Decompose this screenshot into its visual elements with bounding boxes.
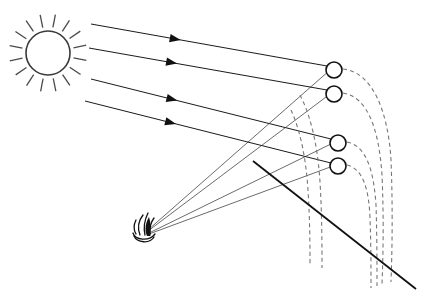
sun-spikes (10, 15, 87, 92)
sun-ray-arrowhead-3 (166, 94, 178, 102)
flame-core (146, 217, 151, 236)
sun-spike (53, 15, 55, 28)
light-rays-diagram (0, 0, 430, 305)
sun-spike (27, 75, 34, 86)
traj-5 (300, 95, 322, 268)
sun-spike (41, 79, 43, 92)
sun-ray-arrowhead-4 (164, 117, 176, 125)
sun-spike (53, 78, 56, 91)
flame-left (139, 215, 143, 235)
sun-spike (26, 21, 33, 32)
sun-ray-2 (89, 48, 327, 90)
sun-ray-1 (91, 24, 327, 66)
sun-spike (73, 45, 86, 48)
sun-rays-group (85, 24, 331, 163)
traj-4 (347, 165, 371, 288)
fire-ray-3 (149, 143, 333, 233)
sun-spike (16, 68, 27, 75)
fire-icon (133, 213, 155, 242)
flame-far-left (134, 220, 136, 234)
sun-ray-arrowhead-2 (166, 58, 178, 66)
sphere-4 (330, 158, 346, 174)
sun-spike (70, 67, 81, 74)
sun-spike (10, 58, 23, 61)
sun-ray-3 (91, 79, 331, 139)
sun-spike (63, 75, 70, 86)
sun-spike (62, 20, 69, 31)
sun-spike (70, 31, 81, 38)
fire-rays-group (148, 70, 333, 234)
sphere-2 (326, 86, 342, 102)
sun-spike (74, 58, 87, 60)
sphere-1 (326, 62, 342, 78)
sphere-3 (330, 135, 346, 151)
sun-disc (26, 31, 70, 75)
fire-ray-4 (149, 166, 333, 234)
traj-3 (347, 142, 377, 286)
sun-icon (10, 15, 87, 92)
sun-spike (10, 46, 23, 48)
sun-spike (15, 32, 26, 39)
sun-spike (40, 15, 43, 28)
trajectory-curves-group (291, 69, 392, 288)
sun-ray-arrowhead-1 (169, 34, 181, 42)
sun-ray-4 (85, 101, 331, 163)
diagram-canvas (0, 0, 430, 305)
fire-ray-1 (148, 70, 330, 230)
spheres-group (326, 62, 346, 174)
fire-ray-2 (148, 94, 330, 231)
